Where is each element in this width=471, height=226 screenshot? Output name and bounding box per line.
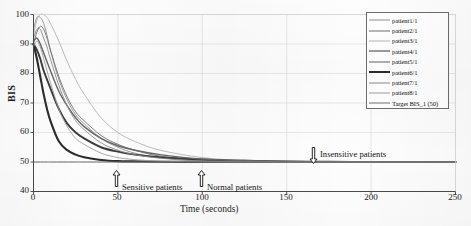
y-tick-50: 50: [5, 156, 29, 166]
normal-patients-label: Normal patients: [207, 182, 262, 192]
normal-patients-arrow-icon: [197, 170, 206, 187]
x-tick-150: 150: [273, 192, 299, 202]
sensitive-patients-label: Sensitive patients: [122, 182, 182, 192]
y-tick-90: 90: [5, 38, 29, 48]
legend-item-label: patient1/1: [390, 17, 417, 24]
legend-line-swatch: [369, 46, 390, 56]
legend-item[interactable]: patient1/1: [367, 15, 448, 25]
y-tick-100: 100: [5, 9, 29, 19]
legend: patient1/1 patient2/1 patient3/1 patient…: [366, 12, 449, 109]
x-tick-50: 50: [104, 192, 130, 202]
legend-line-swatch: [369, 26, 390, 36]
insensitive-patients-label: Insensitive patients: [320, 149, 386, 159]
legend-item-label: patient3/1: [390, 37, 417, 44]
legend-item-label: patient6/1: [390, 69, 417, 76]
x-tick-0: 0: [20, 192, 46, 202]
legend-line-swatch: [369, 57, 390, 67]
legend-item[interactable]: patient7/1: [367, 77, 448, 87]
legend-item[interactable]: patient8/1: [367, 88, 448, 98]
legend-item[interactable]: patient3/1: [367, 36, 448, 46]
legend-line-swatch: [369, 36, 390, 46]
legend-line-swatch: [369, 88, 390, 98]
sensitive-patients-arrow-icon: [112, 170, 121, 187]
y-tick-70: 70: [5, 97, 29, 107]
x-axis-title: Time (seconds): [180, 204, 239, 214]
legend-line-swatch: [369, 15, 390, 25]
y-tick-80: 80: [5, 67, 29, 77]
legend-line-swatch: [369, 78, 390, 88]
legend-item[interactable]: Target BIS_1 (50): [367, 98, 448, 108]
x-tick-250: 250: [442, 192, 468, 202]
y-tick-60: 60: [5, 126, 29, 136]
x-tick-200: 200: [358, 192, 384, 202]
legend-item-label: patient8/1: [390, 89, 417, 96]
legend-item[interactable]: patient2/1: [367, 25, 448, 35]
legend-item-label: patient7/1: [390, 79, 417, 86]
legend-item-label: Target BIS_1 (50): [390, 100, 438, 107]
x-tick-100: 100: [189, 192, 215, 202]
bis-response-chart: BIS Time (seconds) 100 90 80 70 60 50 40…: [0, 0, 471, 226]
legend-item[interactable]: patient4/1: [367, 46, 448, 56]
insensitive-patients-arrow-icon: [309, 147, 318, 164]
legend-item[interactable]: patient5/1: [367, 57, 448, 67]
legend-line-swatch: [369, 98, 390, 108]
legend-line-swatch: [369, 67, 390, 77]
legend-item-label: patient4/1: [390, 48, 417, 55]
y-axis-title: BIS: [6, 71, 17, 117]
legend-item-label: patient2/1: [390, 27, 417, 34]
legend-item-label: patient5/1: [390, 58, 417, 65]
legend-item[interactable]: patient6/1: [367, 67, 448, 77]
